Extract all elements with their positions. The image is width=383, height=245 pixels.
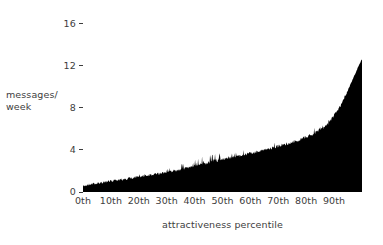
y-axis-tick-label: 12	[64, 61, 77, 71]
x-axis-tick-60th: 60th	[239, 195, 261, 207]
x-axis-tick-0th: 0th	[75, 195, 91, 207]
chart-container: messages/ week 1612840 0th10th20th30th40…	[0, 0, 383, 245]
y-axis-tick-label: 16	[64, 19, 77, 29]
x-axis-tick-30th: 30th	[156, 195, 178, 207]
y-axis-tick-4: 4	[49, 145, 83, 155]
x-axis-tick-50th: 50th	[211, 195, 233, 207]
y-axis-tick-8: 8	[49, 103, 83, 113]
x-axis-tick-80th: 80th	[295, 195, 317, 207]
y-axis-tick-label: 4	[70, 145, 76, 155]
x-axis-tick-20th: 20th	[128, 195, 150, 207]
y-axis-tick-16: 16	[49, 19, 83, 29]
x-axis-tick-90th: 90th	[323, 195, 345, 207]
x-axis-tick-group: 0th10th20th30th40th50th60th70th80th90th	[83, 195, 362, 209]
x-axis-title: attractiveness percentile	[83, 219, 362, 231]
plot-area	[83, 10, 362, 192]
y-axis-tick-group: 1612840	[44, 0, 83, 245]
y-axis-tick-label: 8	[70, 103, 76, 113]
x-axis-tick-70th: 70th	[267, 195, 289, 207]
y-axis-tick-12: 12	[49, 61, 83, 71]
x-axis-tick-10th: 10th	[100, 195, 122, 207]
area-series-messages-per-week	[83, 60, 362, 192]
area-chart-svg	[83, 10, 362, 192]
x-axis-tick-40th: 40th	[183, 195, 205, 207]
